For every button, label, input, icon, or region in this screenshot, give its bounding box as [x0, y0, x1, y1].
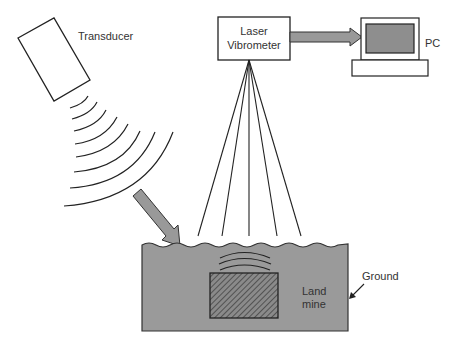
pc	[352, 18, 428, 76]
diagram-canvas: Transducer Laser Vibrometer PC	[0, 0, 453, 347]
landmine	[210, 273, 278, 318]
laser-beam	[249, 60, 301, 236]
laser-vibrometer-label-line1: Laser	[240, 25, 268, 37]
data-arrow-to-pc	[290, 28, 362, 46]
landmine-label-line2: mine	[302, 298, 326, 310]
ground-label: Ground	[362, 270, 399, 282]
laser-vibrometer: Laser Vibrometer	[218, 17, 290, 60]
acoustic-waves	[64, 96, 173, 206]
pc-screen	[366, 24, 414, 53]
wave-direction-arrow	[133, 189, 180, 246]
laser-beam	[198, 60, 249, 236]
transducer-label: Transducer	[78, 30, 134, 42]
laser-vibrometer-label-line2: Vibrometer	[227, 39, 281, 51]
ground-pointer-arrow	[349, 284, 364, 299]
laser-beams	[198, 60, 301, 236]
laser-beam	[249, 60, 277, 236]
pc-base	[352, 60, 428, 76]
pc-label: PC	[425, 37, 440, 49]
landmine-label-line1: Land	[302, 285, 326, 297]
laser-beam	[222, 60, 249, 236]
